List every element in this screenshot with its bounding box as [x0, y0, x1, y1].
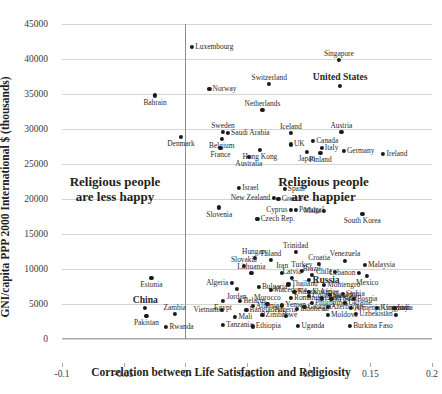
data-point-label: Spain — [288, 185, 305, 192]
data-point-label: Italy — [325, 144, 339, 151]
y-axis-tick: 30000 — [0, 124, 48, 134]
data-point[interactable] — [343, 259, 347, 263]
y-axis-tick: 0 — [0, 334, 48, 344]
data-point-label: Venezuela — [330, 250, 360, 257]
data-point-label: Poland — [261, 249, 282, 256]
data-point[interactable] — [320, 146, 324, 150]
data-point-label: UK — [294, 141, 305, 148]
data-point-label: Norway — [213, 85, 237, 92]
data-point-label: Latvia — [283, 267, 302, 274]
data-point-label: Vietnam — [194, 306, 219, 313]
data-point[interactable] — [250, 324, 254, 328]
data-point-label: Trinidad — [283, 242, 308, 249]
data-point-label: Denmark — [167, 140, 195, 147]
data-point[interactable] — [207, 87, 211, 91]
annotation-line: Religious people — [70, 173, 161, 188]
data-point[interactable] — [326, 312, 330, 316]
data-point-label: Bahrain — [143, 99, 166, 106]
data-point-label: Czech Rep. — [261, 216, 295, 223]
data-point-label: Greece — [282, 195, 303, 202]
data-point[interactable] — [229, 281, 233, 285]
data-point-label: Lithuania — [237, 263, 265, 270]
gridline-y — [62, 24, 432, 25]
data-point[interactable] — [233, 315, 237, 319]
data-point-label: South Korea — [344, 217, 381, 224]
data-point[interactable] — [257, 284, 261, 288]
data-point-label: New Zealand — [231, 195, 271, 202]
data-point[interactable] — [289, 142, 293, 146]
data-point-label: France — [210, 151, 230, 158]
data-point-label: Israel — [242, 184, 258, 191]
data-point[interactable] — [311, 139, 315, 143]
data-point[interactable] — [294, 250, 298, 254]
data-point[interactable] — [289, 131, 293, 135]
data-point-label: Cyprus — [266, 206, 287, 213]
data-point[interactable] — [338, 84, 342, 88]
data-point-label: Australia — [235, 160, 262, 167]
zero-reference-line — [185, 24, 186, 339]
data-point[interactable] — [363, 263, 367, 267]
data-point-label: Austria — [330, 121, 352, 128]
data-point-label: China — [133, 295, 158, 305]
data-point[interactable] — [226, 130, 230, 134]
data-point[interactable] — [255, 217, 259, 221]
data-point-label: Estonia — [140, 281, 162, 288]
data-point-label: Switzerland — [252, 74, 287, 81]
data-point-label: Saudi Arabia — [231, 129, 269, 136]
gridline-y — [62, 94, 432, 95]
y-axis-tick: 5000 — [0, 299, 48, 309]
gridline-y — [62, 339, 432, 340]
data-point[interactable] — [322, 209, 326, 213]
data-point[interactable] — [348, 324, 352, 328]
data-point-label: Rwanda — [169, 323, 193, 330]
x-axis-line — [62, 338, 432, 339]
data-point[interactable] — [238, 299, 242, 303]
data-point-label: Uruguay — [383, 304, 409, 311]
data-point-label: Morocco — [254, 293, 281, 300]
data-point-label: Iceland — [280, 123, 302, 130]
data-point-label: Zambia — [164, 303, 187, 310]
data-point[interactable] — [269, 258, 273, 262]
data-point-label: Malta — [304, 207, 321, 214]
data-point-label: Germany — [347, 147, 375, 154]
data-point-label: Malaysia — [368, 261, 395, 268]
data-point[interactable] — [294, 208, 298, 212]
data-point[interactable] — [381, 152, 385, 156]
data-point[interactable] — [357, 270, 361, 274]
data-point-label: Indonesia — [300, 305, 329, 312]
data-point-label: Tanzania — [226, 321, 253, 328]
data-point[interactable] — [260, 312, 264, 316]
data-point-label: Luxembourg — [195, 43, 233, 50]
data-point[interactable] — [260, 108, 264, 112]
data-point[interactable] — [190, 45, 194, 49]
data-point-label: Nigeria — [275, 305, 297, 312]
data-point[interactable] — [249, 271, 253, 275]
gridline-y — [62, 234, 432, 235]
y-axis-tick: 45000 — [0, 19, 48, 29]
data-point-label: Algeria — [206, 279, 228, 286]
data-point[interactable] — [339, 130, 343, 134]
data-point-label: Singapore — [324, 49, 354, 56]
data-point-label: Pakistan — [134, 319, 159, 326]
x-axis-label: Correlation between Life Satisfaction an… — [0, 366, 442, 378]
data-point-label: Netherlands — [245, 99, 281, 106]
plot-area: 0500010000150002000025000300003500040000… — [62, 24, 432, 339]
data-point[interactable] — [164, 325, 168, 329]
data-point[interactable] — [394, 312, 398, 316]
data-point[interactable] — [289, 296, 293, 300]
data-point[interactable] — [221, 130, 225, 134]
data-point[interactable] — [221, 323, 225, 327]
data-point-label: Ireland — [386, 150, 407, 157]
data-point[interactable] — [289, 207, 293, 211]
data-point[interactable] — [296, 324, 300, 328]
less-happy-note: Religious peopleare less happy — [70, 173, 161, 204]
data-point[interactable] — [237, 186, 241, 190]
scatter-chart: GNI/capita PPP 2000 International $ (tho… — [0, 0, 442, 394]
data-point[interactable] — [267, 82, 271, 86]
data-point-label: Brazil — [303, 265, 321, 272]
data-point[interactable] — [173, 312, 177, 316]
annotation-line: are less happy — [70, 189, 161, 204]
data-point[interactable] — [342, 149, 346, 153]
data-point[interactable] — [337, 58, 341, 62]
data-point[interactable] — [143, 306, 147, 310]
